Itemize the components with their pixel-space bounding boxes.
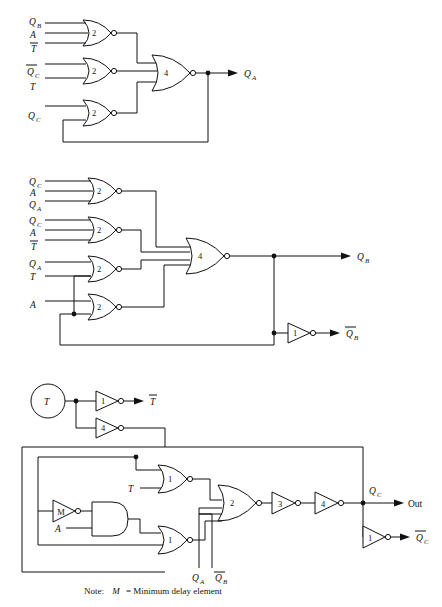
input-label-qc-qa-sub: A (199, 578, 205, 585)
t-source: T (31, 384, 88, 418)
gate-number-qb-2: 2 (97, 225, 101, 235)
block-qb-input-labels: Q C A Q A Q C A T Q A T A (29, 177, 42, 310)
inverter-qc-3: 3 (262, 492, 301, 514)
input-label-qb-sub: B (37, 22, 41, 29)
input-label-qb1-qc: Q (29, 177, 36, 187)
inverter-qb-bar: 1 (274, 323, 340, 343)
block-qa: Q B A T Q C T Q C 2 2 (26, 17, 257, 142)
input-label-qc: Q (28, 111, 35, 121)
gate-number-qa-2: 2 (92, 66, 96, 76)
input-label-qb2-qc-sub: C (37, 221, 42, 228)
block-qa-input-labels: Q B A T Q C T Q C (26, 17, 41, 123)
input-label-qb2-qc: Q (29, 216, 36, 226)
input-label-qb1-a: A (29, 188, 36, 198)
input-label-qb3-qa: Q (29, 259, 36, 269)
input-label-qc-qbbar-sub: B (223, 578, 227, 585)
input-label-qc-qbbar: Q (215, 573, 222, 583)
input-label-qc-sub: C (36, 116, 41, 123)
output-label-qb-bar-sub: B (354, 334, 358, 341)
nor-gate-qc-bot: 1 (158, 521, 205, 554)
input-label-qb1-qa: Q (29, 200, 36, 210)
note-prefix: Note: (84, 586, 104, 596)
nor-gate-qa-2: 2 (45, 58, 117, 84)
nor-gate-qa-3: 2 (45, 100, 117, 126)
nor-gate-qb-1: 2 (45, 178, 122, 204)
note-symbol: M (111, 586, 120, 596)
circuit-diagram: Q B A T Q C T Q C 2 2 (0, 0, 442, 607)
gate-number-qb-inv: 1 (293, 328, 297, 338)
gate-number-qc-inv: 1 (368, 533, 372, 543)
input-label-t: T (30, 82, 36, 92)
output-label-qc-bar-sub: C (424, 538, 429, 545)
gate-number-qa-1: 2 (92, 28, 96, 38)
nor-gate-qc-main: 2 Q A Q B (192, 485, 262, 585)
gate-number-qb-4: 2 (97, 302, 101, 312)
inverter-t-bar: 1 T (88, 391, 157, 411)
input-label-qc-qa: Q (192, 573, 199, 583)
output-label-out: Out (408, 499, 423, 509)
input-label-qb3-qa-sub: A (36, 264, 42, 271)
gate-number-m: M (57, 507, 65, 517)
input-label-qcbar: Q (27, 67, 34, 77)
input-label-qb1-qc-sub: C (37, 182, 42, 189)
nor-gate-qb-3: 2 (45, 256, 122, 282)
output-label-t-bar: T (150, 397, 156, 407)
nor-gate-qb-main: 4 (186, 238, 230, 274)
nor-gate-qb-2: 2 (45, 217, 122, 243)
input-label-qb2-tbar: T (31, 242, 37, 252)
output-label-qa: Q (244, 69, 251, 79)
nor-gate-qa-1: 2 (45, 20, 117, 46)
nor-gate-qb-4: 2 (45, 294, 122, 320)
input-label-qb: Q (29, 17, 36, 27)
figure-note: Note: M = Minimum delay element (84, 586, 222, 596)
inverter-qc-bar: 1 Q C (363, 503, 429, 548)
qc-output: Q C Out (165, 447, 423, 509)
output-label-qc-bar: Q (416, 533, 423, 543)
input-label-qb3-t: T (30, 272, 36, 282)
output-label-qb: Q (357, 252, 364, 262)
input-label-qc-a: A (54, 524, 61, 534)
output-label-qb-sub: B (365, 257, 369, 264)
gate-number-qa-3: 2 (92, 108, 96, 118)
figure-canvas: Q B A T Q C T Q C 2 2 (0, 0, 442, 607)
input-label-qc-t: T (128, 484, 134, 494)
inverter-t-delay: 4 (76, 401, 165, 447)
inverter-m: M (38, 500, 81, 522)
output-label-qb-bar: Q (346, 329, 353, 339)
output-label-qa-sub: A (251, 74, 257, 81)
input-label-qcbar-sub: C (35, 72, 40, 79)
gate-number-qc-3: 3 (278, 499, 282, 509)
gate-number-qb-1: 2 (97, 186, 101, 196)
t-source-label: T (44, 397, 50, 407)
note-text: = Minimum delay element (126, 586, 222, 596)
input-label-qb2-a: A (29, 228, 36, 238)
output-label-qc: Q (369, 486, 376, 496)
gate-number-t-inv: 1 (101, 396, 105, 406)
and-gate-ma: A (54, 502, 161, 536)
input-label-tbar: T (31, 44, 37, 54)
block-qc: T 1 T 4 (22, 384, 429, 596)
gate-number-qc-bot: 1 (168, 535, 172, 545)
block-qb: Q C A Q A Q C A T Q A T A 2 2 (29, 177, 369, 345)
svg-text:Note: M = Mini: Note: M = Minimum delay element (84, 586, 222, 596)
gate-number-qc-top: 1 (168, 474, 172, 484)
input-label-qb4-a: A (29, 300, 36, 310)
gate-number-qb-3: 2 (97, 264, 101, 274)
nor-gate-qa-4: 4 (152, 55, 196, 91)
input-label-qb1-qa-sub: A (36, 205, 42, 212)
input-label-a: A (29, 30, 36, 40)
nor-gate-qc-top: 1 T (128, 457, 210, 500)
inverter-qc-4: 4 (301, 492, 344, 514)
output-label-qc-sub: C (377, 491, 382, 498)
gate-number-qc-main: 2 (230, 498, 234, 508)
